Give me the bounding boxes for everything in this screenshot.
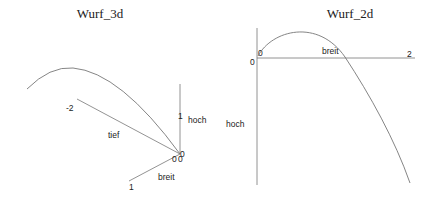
trajectory-curve-3d bbox=[27, 68, 180, 154]
tief-label-3d: tief bbox=[108, 130, 120, 140]
origin-zero-c: 0 bbox=[180, 149, 185, 159]
figure-canvas: Wurf_3d 1 hoch -2 tief 1 breit 0 0 0 Wur… bbox=[0, 0, 435, 197]
origin-zero-a: 0 bbox=[172, 154, 177, 164]
hoch-tick-3d: 1 bbox=[178, 111, 183, 121]
breit-label-3d: breit bbox=[158, 172, 175, 182]
x-max-tick-2d: 2 bbox=[407, 49, 412, 59]
tief-tick-3d: -2 bbox=[66, 103, 74, 113]
chart-title-3d: Wurf_3d bbox=[77, 6, 124, 21]
y-axis-label-2d: hoch bbox=[226, 119, 245, 129]
chart-title-2d: Wurf_2d bbox=[327, 6, 374, 21]
tief-axis-3d bbox=[77, 99, 180, 154]
breit-tick-3d: 1 bbox=[129, 182, 134, 192]
chart-wurf-2d: Wurf_2d 0 0 2 breit hoch bbox=[226, 6, 415, 185]
y-origin-tick-2d: 0 bbox=[250, 57, 255, 67]
chart-wurf-3d: Wurf_3d 1 hoch -2 tief 1 breit 0 0 0 bbox=[27, 6, 207, 192]
hoch-label-3d: hoch bbox=[188, 115, 207, 125]
